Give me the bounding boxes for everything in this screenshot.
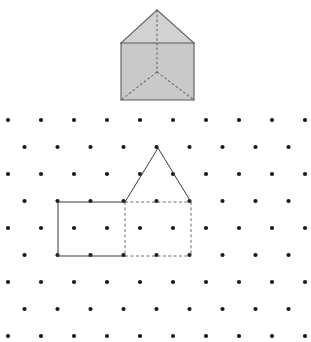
roof-left-slope [125,148,158,202]
worksheet-canvas [0,0,311,342]
house-outline-drawing [0,0,311,342]
roof-right-slope [158,148,191,202]
